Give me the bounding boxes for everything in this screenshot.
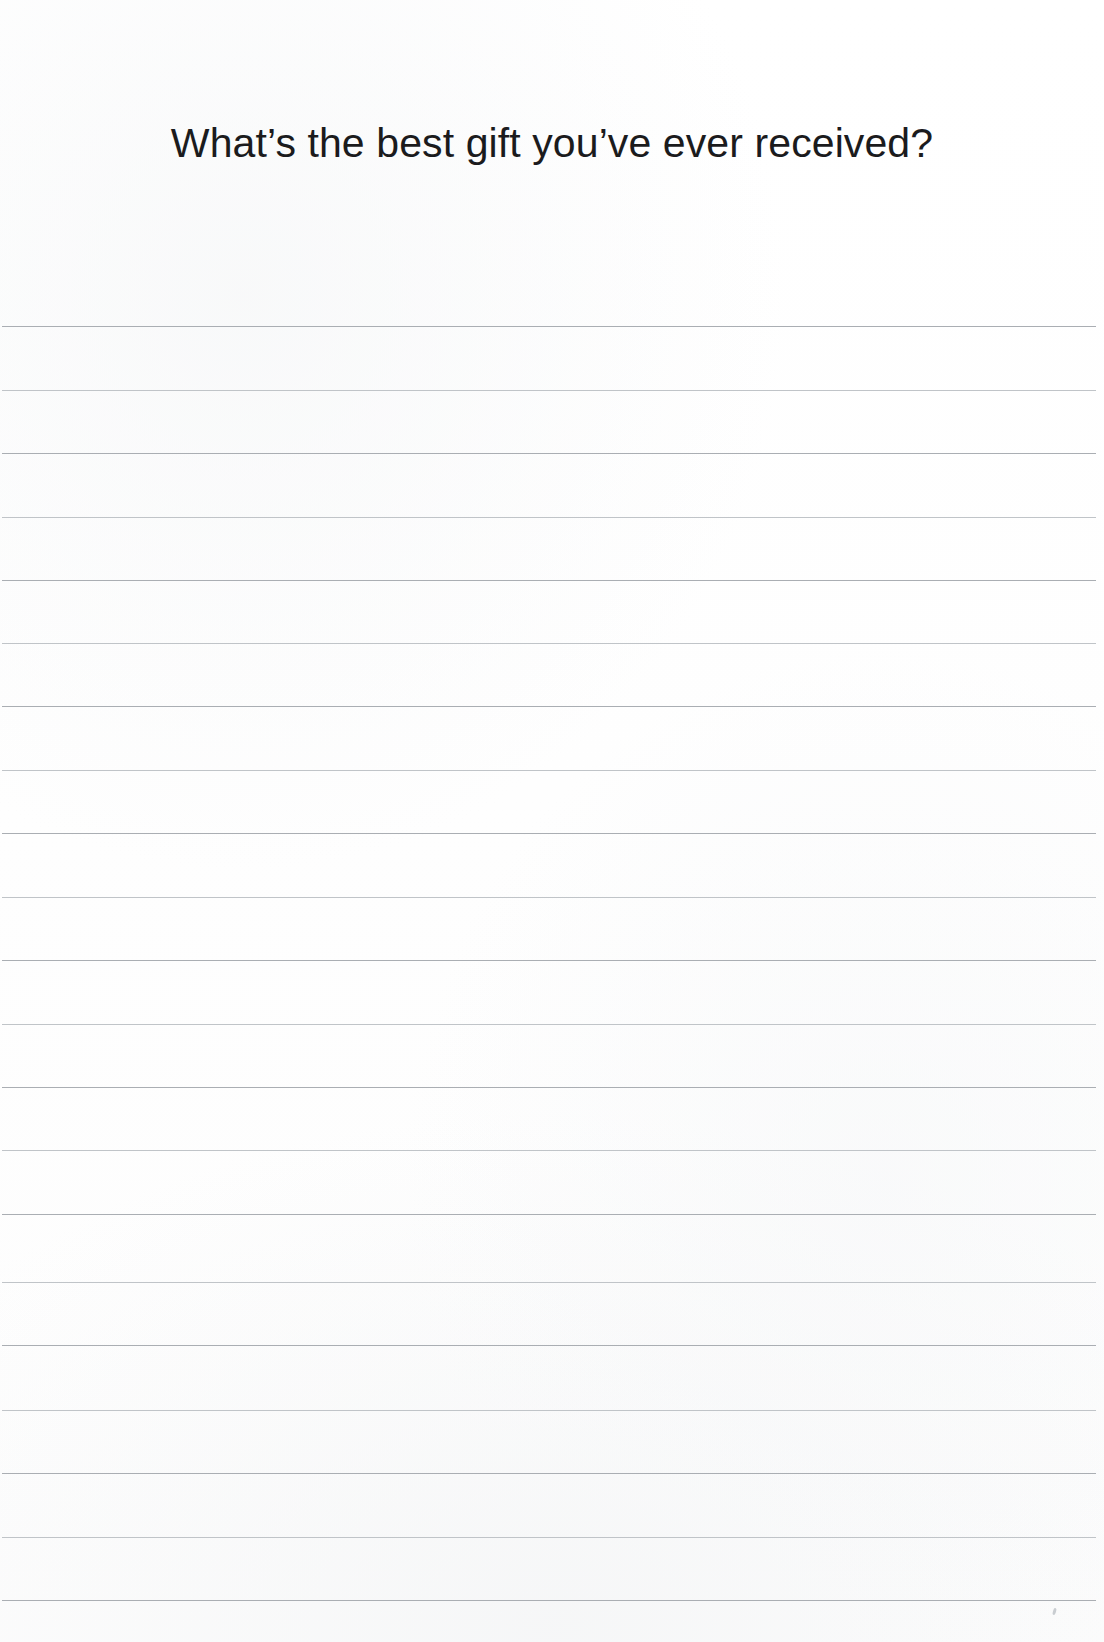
- ruled-writing-area[interactable]: [0, 0, 1104, 1642]
- writing-line[interactable]: [2, 833, 1096, 834]
- writing-line[interactable]: [2, 326, 1096, 327]
- writing-line[interactable]: [2, 1473, 1096, 1474]
- journal-prompt-page: What’s the best gift you’ve ever receive…: [0, 0, 1104, 1642]
- writing-line[interactable]: [2, 390, 1096, 391]
- writing-line[interactable]: [2, 643, 1096, 644]
- writing-line[interactable]: [2, 1024, 1096, 1025]
- writing-line[interactable]: [2, 1087, 1096, 1088]
- writing-line[interactable]: [2, 517, 1096, 518]
- writing-line[interactable]: [2, 960, 1096, 961]
- writing-line[interactable]: [2, 1345, 1096, 1346]
- writing-line[interactable]: [2, 897, 1096, 898]
- writing-line[interactable]: [2, 706, 1096, 707]
- writing-line[interactable]: [2, 770, 1096, 771]
- writing-line[interactable]: [2, 580, 1096, 581]
- writing-line[interactable]: [2, 1150, 1096, 1151]
- writing-line[interactable]: [2, 1600, 1096, 1601]
- writing-line[interactable]: [2, 1214, 1096, 1215]
- writing-line[interactable]: [2, 1410, 1096, 1411]
- writing-line[interactable]: [2, 453, 1096, 454]
- writing-line[interactable]: [2, 1537, 1096, 1538]
- writing-line[interactable]: [2, 1282, 1096, 1283]
